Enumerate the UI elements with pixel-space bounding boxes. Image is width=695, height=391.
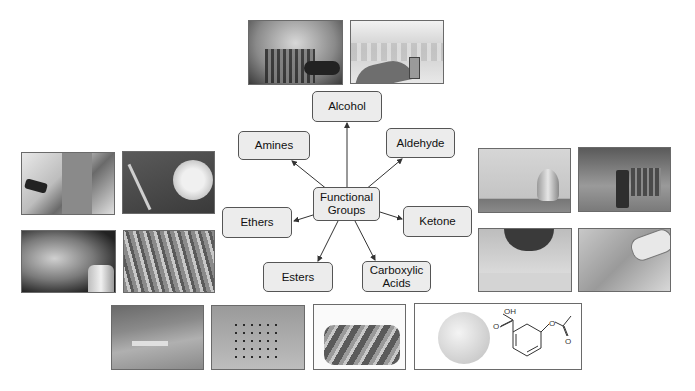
node-label: Esters bbox=[282, 271, 315, 284]
arrow-to-ethers bbox=[294, 215, 313, 221]
arrow-to-esters bbox=[318, 221, 338, 261]
node-label: Amines bbox=[255, 139, 293, 152]
node-amines: Amines bbox=[238, 131, 310, 160]
arrow-to-carboxylic bbox=[355, 221, 375, 260]
arrow-to-aldehyde bbox=[365, 159, 402, 190]
arrow-to-ketone bbox=[380, 212, 402, 219]
arrow-to-amines bbox=[292, 161, 328, 190]
node-label: Ketone bbox=[419, 215, 455, 228]
node-ethers: Ethers bbox=[222, 207, 292, 238]
node-label: Aldehyde bbox=[397, 137, 445, 150]
node-alcohol: Alcohol bbox=[312, 91, 382, 122]
node-esters: Esters bbox=[263, 262, 333, 292]
node-functional-groups: Functional Groups bbox=[313, 187, 380, 221]
node-label: Carboxylic Acids bbox=[370, 264, 424, 290]
node-label: Alcohol bbox=[328, 100, 366, 113]
node-label: Functional Groups bbox=[320, 191, 373, 217]
node-label: Ethers bbox=[240, 216, 273, 229]
node-carboxylic-acids: Carboxylic Acids bbox=[362, 261, 431, 292]
node-aldehyde: Aldehyde bbox=[386, 128, 455, 158]
node-ketone: Ketone bbox=[403, 206, 472, 237]
